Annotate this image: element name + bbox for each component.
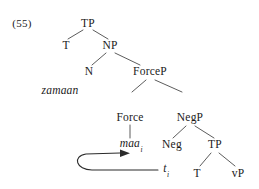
node-vp: vP: [232, 168, 245, 180]
node-t-low: T: [193, 168, 200, 180]
node-trace: ti: [163, 163, 169, 177]
branch-np-to-n: [92, 53, 106, 65]
node-force: Force: [116, 112, 143, 124]
branch-tp-to-vp: [219, 153, 235, 166]
branch-negp-to-tp: [195, 126, 214, 138]
node-tp-low: TP: [208, 139, 222, 151]
node-forcep: ForceP: [133, 66, 167, 78]
node-neg: Neg: [162, 139, 182, 151]
node-tp-top: TP: [81, 18, 95, 30]
branch-tp-to-tlow: [200, 153, 211, 166]
branch-forcep-to-force: [132, 80, 146, 92]
node-np: NP: [102, 40, 117, 52]
tree-branch-lines: [0, 0, 259, 189]
branch-tp-to-np: [93, 30, 108, 39]
node-maa-index: i: [141, 145, 143, 154]
node-n: N: [85, 66, 94, 78]
node-maa: maai: [120, 138, 143, 152]
node-trace-label: t: [163, 162, 166, 174]
node-trace-index: i: [167, 170, 169, 179]
node-t-spec: T: [62, 40, 69, 52]
movement-arrow-path: [77, 153, 158, 170]
branch-negp-to-neg: [173, 126, 186, 138]
syntax-tree-figure: (55) TP T NP N zamaan: [0, 0, 259, 189]
branch-tp-to-t: [68, 30, 83, 39]
node-negp: NegP: [177, 112, 203, 124]
movement-arrow: [77, 153, 158, 170]
branch-forcep-to-negp: [155, 80, 182, 92]
node-maa-label: maa: [120, 137, 140, 149]
branch-np-to-forcep: [115, 53, 140, 65]
example-number: (55): [12, 17, 32, 29]
node-zamaan: zamaan: [42, 85, 79, 97]
